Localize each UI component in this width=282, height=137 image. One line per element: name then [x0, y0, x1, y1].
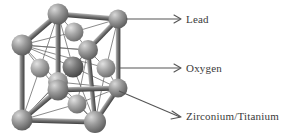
label-oxygen: Oxygen	[186, 62, 222, 74]
arrowhead-zirconium-titanium	[171, 111, 181, 119]
arrowhead-lead	[174, 15, 181, 23]
perovskite-figure: Lead Oxygen Zirconium/Titanium	[0, 0, 282, 137]
arrowhead-oxygen	[174, 64, 181, 72]
label-zirconium-titanium: Zirconium/Titanium	[186, 110, 279, 122]
crystal-lattice-graphic	[0, 0, 140, 137]
label-lead: Lead	[186, 13, 209, 25]
zirconium-titanium-atom	[63, 57, 84, 78]
